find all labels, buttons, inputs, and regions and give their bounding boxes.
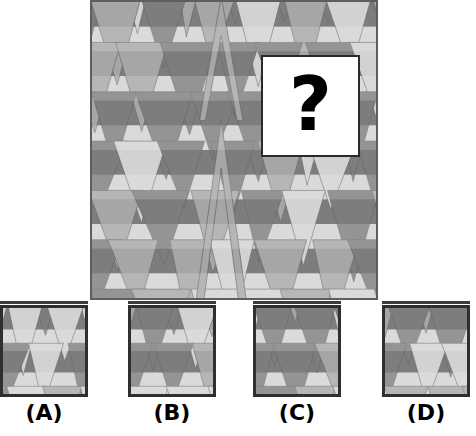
answer-option-d-thumb[interactable] bbox=[382, 305, 470, 397]
answer-option-b[interactable]: (B) bbox=[128, 305, 216, 397]
option-rule-c bbox=[253, 301, 341, 304]
answer-option-b-graphic bbox=[131, 308, 213, 394]
answer-option-b-label: (B) bbox=[128, 400, 216, 425]
answer-option-d-label: (D) bbox=[382, 400, 470, 425]
missing-piece-box: ? bbox=[261, 55, 360, 157]
answer-option-a[interactable]: (A) bbox=[0, 305, 88, 397]
answer-option-c[interactable]: (C) bbox=[253, 305, 341, 397]
option-rule-b bbox=[128, 301, 216, 304]
answer-option-d[interactable]: (D) bbox=[382, 305, 470, 397]
answer-option-c-thumb[interactable] bbox=[253, 305, 341, 397]
answer-option-c-graphic bbox=[256, 308, 338, 394]
answer-option-d-graphic bbox=[385, 308, 467, 394]
answer-option-b-thumb[interactable] bbox=[128, 305, 216, 397]
pattern-puzzle: ? (A) (B) (C) (D) bbox=[0, 0, 476, 436]
answer-option-c-label: (C) bbox=[253, 400, 341, 425]
answer-option-a-graphic bbox=[3, 308, 85, 394]
answer-option-a-thumb[interactable] bbox=[0, 305, 88, 397]
option-rule-a bbox=[0, 301, 88, 304]
option-rule-d bbox=[382, 301, 470, 304]
answer-option-a-label: (A) bbox=[0, 400, 88, 425]
question-mark-glyph: ? bbox=[289, 67, 332, 145]
